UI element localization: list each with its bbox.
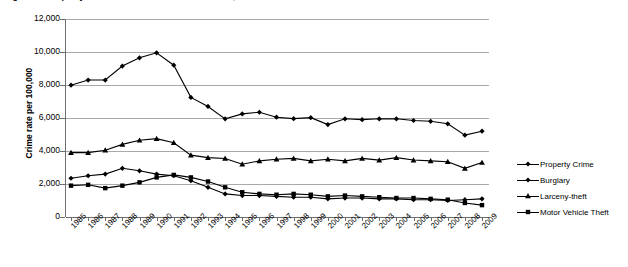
y-axis-tick-mark	[60, 85, 65, 86]
diamond-marker	[137, 55, 142, 60]
diamond-marker	[411, 118, 416, 123]
legend-swatch	[517, 174, 539, 186]
legend-swatch	[517, 190, 539, 202]
y-axis-tick-mark	[60, 19, 65, 20]
legend-label: Burglary	[539, 176, 570, 185]
diamond-marker	[86, 173, 91, 178]
triangle-marker	[479, 160, 485, 165]
square-marker	[428, 197, 432, 201]
square-marker	[480, 203, 484, 207]
diamond-marker	[223, 191, 228, 196]
square-marker	[172, 173, 176, 177]
diamond-marker	[479, 129, 484, 134]
square-marker	[394, 196, 398, 200]
series-line	[71, 53, 482, 135]
y-axis-tick-mark	[60, 184, 65, 185]
triangle-marker	[522, 190, 534, 202]
diamond-marker	[377, 116, 382, 121]
square-marker	[343, 193, 347, 197]
diamond-marker	[522, 158, 534, 170]
legend-label: Motor Vehicle Theft	[539, 208, 609, 217]
diamond-marker	[394, 116, 399, 121]
square-marker	[446, 197, 450, 201]
diamond-marker	[257, 110, 262, 115]
diamond-marker	[291, 116, 296, 121]
diamond-marker	[479, 196, 484, 201]
square-marker	[377, 195, 381, 199]
legend-swatch	[517, 158, 539, 170]
diamond-marker	[522, 174, 534, 186]
y-axis-tick-label: 12,000	[2, 13, 60, 23]
diamond-marker	[525, 161, 530, 166]
diamond-marker	[188, 95, 193, 100]
y-axis-tick-label: 8,000	[2, 79, 60, 89]
y-axis-tick-label: 0	[2, 211, 60, 221]
series-line	[71, 175, 482, 205]
figure-title: Figure 1. Property Crime Rates in the Un…	[4, 0, 283, 1]
diamond-marker	[86, 77, 91, 82]
crime-rate-line-chart-figure: Figure 1. Property Crime Rates in the Un…	[0, 0, 628, 267]
y-axis-tick-mark	[60, 52, 65, 53]
square-marker	[120, 183, 124, 187]
chart-legend: Property CrimeBurglaryLarceny-theftMotor…	[517, 156, 628, 220]
square-marker	[103, 186, 107, 190]
diamond-marker	[240, 111, 245, 116]
diamond-marker	[360, 117, 365, 122]
square-marker	[69, 183, 73, 187]
diamond-marker	[137, 168, 142, 173]
series-line	[71, 139, 482, 169]
diamond-marker	[68, 83, 73, 88]
y-axis-tick-mark	[60, 217, 65, 218]
diamond-marker	[68, 176, 73, 181]
square-marker	[86, 183, 90, 187]
diamond-marker	[308, 115, 313, 120]
diamond-marker	[103, 172, 108, 177]
square-marker	[240, 190, 244, 194]
square-marker	[206, 179, 210, 183]
y-axis-tick-label: 4,000	[2, 145, 60, 155]
square-marker	[326, 194, 330, 198]
series-layer	[65, 19, 488, 217]
legend-label: Property Crime	[539, 160, 594, 169]
legend-item[interactable]: Property Crime	[517, 156, 628, 172]
diamond-marker	[525, 177, 530, 182]
legend-item[interactable]: Larceny-theft	[517, 188, 628, 204]
series-motor-vehicle-theft	[69, 173, 484, 208]
square-marker	[291, 192, 295, 196]
diamond-marker	[205, 185, 210, 190]
legend-item[interactable]: Motor Vehicle Theft	[517, 204, 628, 220]
y-axis-tick-mark	[60, 151, 65, 152]
square-marker	[526, 210, 530, 214]
square-marker	[223, 185, 227, 189]
diamond-marker	[274, 115, 279, 120]
square-marker	[274, 193, 278, 197]
square-marker	[463, 201, 467, 205]
square-marker	[257, 192, 261, 196]
series-property-crime	[68, 50, 484, 138]
legend-label: Larceny-theft	[539, 192, 587, 201]
square-marker	[360, 194, 364, 198]
square-marker	[522, 206, 534, 218]
legend-item[interactable]: Burglary	[517, 172, 628, 188]
y-axis-tick-label: 6,000	[2, 112, 60, 122]
y-axis-tick-label: 2,000	[2, 178, 60, 188]
square-marker	[411, 196, 415, 200]
diamond-marker	[342, 116, 347, 121]
series-larceny-theft	[68, 136, 485, 171]
square-marker	[309, 193, 313, 197]
diamond-marker	[120, 166, 125, 171]
legend-swatch	[517, 206, 539, 218]
square-marker	[154, 175, 158, 179]
diamond-marker	[428, 119, 433, 124]
square-marker	[137, 180, 141, 184]
y-axis-tick-mark	[60, 118, 65, 119]
y-axis-tick-label: 10,000	[2, 46, 60, 56]
triangle-marker	[525, 193, 531, 198]
triangle-marker	[393, 155, 399, 160]
square-marker	[189, 175, 193, 179]
y-axis-tick-labels: 02,0004,0006,0008,00010,00012,000	[0, 19, 60, 217]
diamond-marker	[325, 122, 330, 127]
